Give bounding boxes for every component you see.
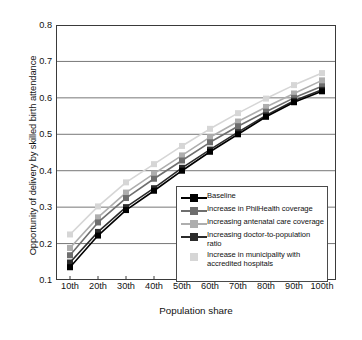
legend-item-label: Increasing doctor-to-population ratio: [207, 230, 324, 249]
data-point-marker: [151, 161, 157, 167]
x-axis-tick-label: 40th: [145, 281, 163, 291]
data-point-marker: [235, 131, 241, 137]
legend-marker: [190, 220, 198, 228]
legend-item-label: Increasing antenatal care coverage: [207, 217, 324, 226]
data-point-marker: [95, 219, 101, 225]
legend-swatch-icon: [181, 231, 207, 242]
data-point-marker: [95, 233, 101, 239]
x-axis-tick-label: 80th: [257, 281, 275, 291]
y-axis-tick-label: 0.4: [8, 166, 52, 176]
data-point-marker: [179, 168, 185, 174]
chart-figure: Opportunity of delivery by skilled birth…: [0, 0, 362, 340]
data-point-marker: [207, 139, 213, 145]
legend-marker: [190, 207, 198, 215]
data-point-marker: [151, 176, 157, 182]
data-point-marker: [67, 245, 73, 251]
data-point-marker: [67, 264, 73, 270]
y-axis-tick-label: 0.6: [8, 93, 52, 103]
x-axis-tick-label: 30th: [117, 281, 135, 291]
data-point-marker: [123, 190, 129, 196]
data-point-marker: [123, 195, 129, 201]
legend-marker: [190, 233, 198, 241]
data-point-marker: [291, 99, 297, 105]
legend-swatch-icon: [181, 205, 207, 216]
legend-item-label: Baseline: [207, 191, 236, 200]
data-point-marker: [67, 231, 73, 237]
y-axis-tick-label: 0.3: [8, 202, 52, 212]
data-point-marker: [67, 252, 73, 258]
legend-swatch-icon: [181, 218, 207, 229]
legend-item: Increasing antenatal care coverage: [181, 217, 324, 229]
legend-swatch-icon: [181, 251, 207, 262]
data-point-marker: [319, 77, 325, 83]
y-axis-tick-label: 0.8: [8, 20, 52, 30]
x-axis-tick-label: 50th: [173, 281, 191, 291]
data-point-marker: [319, 70, 325, 76]
legend-item: Baseline: [181, 191, 324, 203]
data-point-marker: [123, 207, 129, 213]
legend-item: Increasing doctor-to-population ratio: [181, 230, 324, 249]
legend-item-label: Increase in PhilHealth coverage: [207, 204, 313, 213]
data-point-marker: [291, 82, 297, 88]
x-axis-tick-label: 90th: [285, 281, 303, 291]
data-point-marker: [235, 110, 241, 116]
y-axis-tick-labels: 0.10.20.30.40.50.60.70.8: [8, 0, 52, 340]
x-axis-tick-label: 10th: [61, 281, 79, 291]
legend-item-label: Increase in municipality with accredited…: [207, 250, 324, 269]
x-axis-tick-label: 20th: [89, 281, 107, 291]
legend-item: Increase in PhilHealth coverage: [181, 204, 324, 216]
data-point-marker: [207, 149, 213, 155]
y-axis-tick-label: 0.7: [8, 56, 52, 66]
y-axis-tick-label: 0.1: [8, 275, 52, 285]
data-point-marker: [95, 203, 101, 209]
x-axis-tick-label: 100th: [311, 281, 334, 291]
legend-swatch-icon: [181, 192, 207, 203]
data-point-marker: [319, 88, 325, 94]
legend-item: Increase in municipality with accredited…: [181, 250, 324, 269]
data-point-marker: [207, 126, 213, 132]
legend-marker: [190, 253, 198, 261]
x-axis-tick-label: 70th: [229, 281, 247, 291]
data-point-marker: [179, 143, 185, 149]
data-point-marker: [123, 179, 129, 185]
data-point-marker: [235, 123, 241, 129]
data-point-marker: [263, 96, 269, 102]
y-axis-tick-label: 0.5: [8, 129, 52, 139]
data-point-marker: [263, 114, 269, 120]
chart-legend: BaselineIncrease in PhilHealth coverageI…: [176, 186, 328, 282]
x-axis-tick-label: 60th: [201, 281, 219, 291]
legend-marker: [190, 194, 198, 202]
x-axis-tick-labels: 10th20th30th40th50th60th70th80th90th100t…: [56, 281, 336, 297]
x-axis-title: Population share: [56, 305, 336, 316]
data-point-marker: [179, 158, 185, 164]
y-axis-tick-label: 0.2: [8, 239, 52, 249]
data-point-marker: [151, 188, 157, 194]
